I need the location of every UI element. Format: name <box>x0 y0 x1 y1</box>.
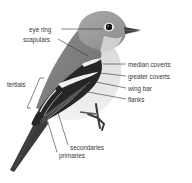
label-wing-bar: wing bar <box>128 85 152 92</box>
eye <box>106 24 112 30</box>
label-greater-coverts: greater coverts <box>128 73 170 80</box>
label-tertials: tertials <box>7 81 25 88</box>
label-eye-ring: eye ring <box>29 26 51 33</box>
label-scapulars: scapulars <box>23 36 50 43</box>
label-median-coverts: median coverts <box>128 61 171 68</box>
bird-anatomy-diagram: eye ring scapulars median coverts greate… <box>0 0 192 183</box>
label-flanks: flanks <box>128 96 144 103</box>
label-secondaries: secondaries <box>70 144 104 151</box>
label-primaries: primaries <box>59 152 85 159</box>
